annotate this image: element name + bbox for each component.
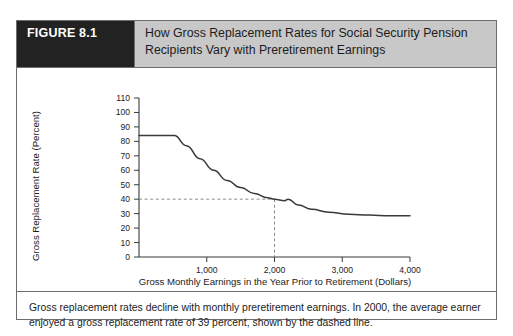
y-tick-label: 60	[120, 165, 130, 175]
y-tick-label: 50	[120, 180, 130, 190]
x-tick-label: 3,000	[331, 265, 353, 275]
y-axis-title: Gross Replacement Rate (Percent)	[30, 111, 41, 261]
x-tick-label: 4,000	[399, 265, 421, 275]
x-tick-label: 2,000	[264, 265, 286, 275]
figure-title-line-1: How Gross Replacement Rates for Social S…	[145, 25, 486, 42]
y-axis-ticks: 0102030405060708090100110	[116, 93, 139, 262]
figure-container: FIGURE 8.1 How Gross Replacement Rates f…	[16, 20, 497, 320]
y-tick-label: 40	[120, 194, 130, 204]
y-tick-label: 20	[120, 223, 130, 233]
y-tick-label: 30	[120, 209, 130, 219]
chart-plot-area: Gross Replacement Rate (Percent) 0102030…	[17, 68, 496, 292]
y-tick-label: 0	[125, 252, 130, 262]
figure-header: FIGURE 8.1 How Gross Replacement Rates f…	[17, 21, 496, 68]
y-tick-label: 110	[116, 93, 130, 103]
figure-caption-line-2: enjoyed a gross replacement rate of 39 p…	[29, 316, 484, 331]
figure-title-line-2: Recipients Vary with Preretirement Earni…	[145, 42, 486, 59]
y-tick-label: 100	[116, 107, 131, 117]
x-axis-title: Gross Monthly Earnings in the Year Prior…	[139, 276, 411, 287]
y-tick-label: 90	[120, 122, 130, 132]
y-tick-label: 80	[120, 136, 130, 146]
y-tick-label: 70	[120, 151, 130, 161]
y-tick-label: 10	[120, 238, 130, 248]
replacement-rate-curve	[139, 136, 410, 216]
x-axis-ticks: 1,0002,0003,0004,000	[196, 257, 421, 275]
figure-caption: Gross replacement rates decline with mon…	[17, 292, 496, 330]
replacement-rate-line-chart: Gross Replacement Rate (Percent) 0102030…	[17, 68, 496, 290]
figure-number-badge: FIGURE 8.1	[17, 21, 134, 67]
figure-caption-line-1: Gross replacement rates decline with mon…	[29, 301, 484, 316]
x-tick-label: 1,000	[196, 265, 218, 275]
figure-title: How Gross Replacement Rates for Social S…	[134, 21, 496, 67]
